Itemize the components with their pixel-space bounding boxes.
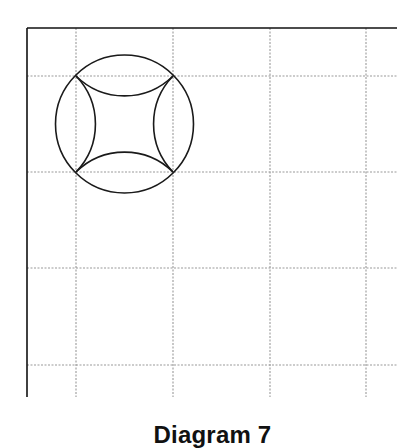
inner-concave-arc bbox=[76, 76, 173, 96]
diagram-caption: Diagram 7 bbox=[0, 421, 415, 448]
inner-concave-arc bbox=[76, 76, 95, 172]
diagram-canvas bbox=[0, 0, 415, 448]
inner-concave-arc bbox=[154, 76, 173, 172]
inner-concave-arc bbox=[76, 152, 173, 172]
